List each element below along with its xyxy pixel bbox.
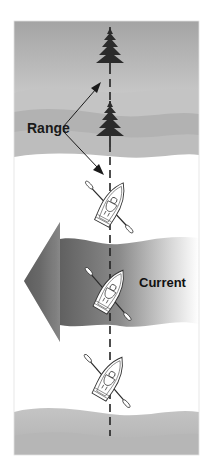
water-edge <box>14 154 199 170</box>
range-current-illustration: Range Current <box>0 0 209 468</box>
current-label: Current <box>139 275 187 290</box>
range-label: Range <box>27 120 70 136</box>
illustration-canvas: Range Current <box>0 0 209 468</box>
